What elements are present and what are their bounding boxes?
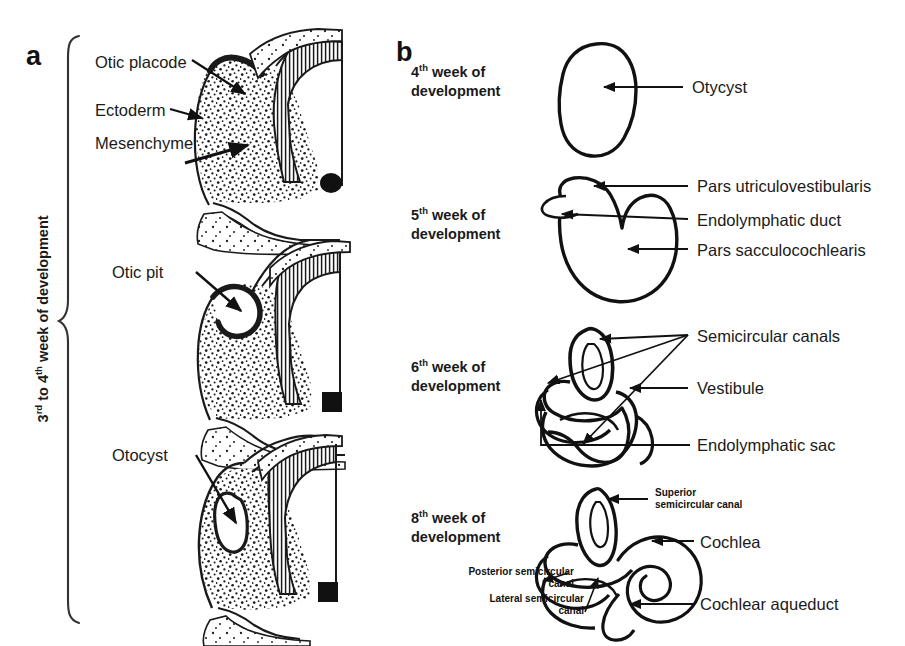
week-label-6: 6th week ofdevelopment: [411, 357, 500, 396]
leader-otic-placode: [192, 60, 245, 94]
leader-endolymphatic-duct: [562, 214, 688, 219]
label-pars-sacculocochlearis: Pars sacculocochlearis: [697, 241, 866, 260]
drawing-otic-pit-stage: [196, 240, 350, 470]
label-posterior-semicircular-canal: Posterior semicircularcanal: [424, 566, 574, 590]
label-cochlea: Cochlea: [700, 533, 761, 552]
label-cochlear-aqueduct: Cochlear aqueduct: [700, 595, 839, 614]
label-otic-placode: Otic placode: [95, 53, 187, 72]
leader-otocyst: [196, 455, 236, 523]
leader-semicircular-canal-posterior: [583, 335, 688, 444]
drawing-week4-otocyst: [559, 44, 683, 156]
panel-a-brace: [59, 36, 79, 623]
leader-mesenchyme: [185, 145, 248, 163]
drawing-week6-labyrinth: [536, 329, 690, 467]
leader-endolymphatic-sac: [541, 400, 690, 445]
week-label-4: 4th week ofdevelopment: [411, 62, 500, 101]
leader-semicircular-canal-superior: [600, 335, 688, 339]
label-ectoderm: Ectoderm: [95, 101, 166, 120]
label-vestibule: Vestibule: [697, 379, 764, 398]
embryology-figure: a 3rd to 4th week of development Otic pl…: [0, 0, 905, 646]
panel-a-letter: a: [26, 43, 41, 70]
label-otic-pit: Otic pit: [112, 263, 163, 282]
panel-a-side-label: 3rd to 4th week of development: [33, 154, 51, 484]
leader-otic-pit: [196, 272, 241, 311]
label-lateral-semicircular-canal: Lateral semicircularcanal: [434, 593, 584, 617]
leader-lateral-semicircular-canal: [585, 578, 598, 612]
drawing-week8-labyrinth: [536, 489, 701, 641]
label-otycyst: Otycyst: [692, 78, 747, 97]
label-endolymphatic-sac: Endolymphatic sac: [697, 436, 836, 455]
drawing-otocyst-stage: [196, 435, 342, 646]
label-endolymphatic-duct: Endolymphatic duct: [697, 211, 841, 230]
leader-semicircular-canal-lateral: [548, 335, 688, 383]
label-superior-semicircular-canal: Superiorsemicircular canal: [655, 487, 742, 511]
week-label-5: 5th week ofdevelopment: [411, 205, 500, 244]
leader-ectoderm: [170, 109, 202, 118]
drawing-week5-otocyst: [542, 178, 688, 302]
drawing-otic-placode-stage: [170, 29, 342, 254]
label-semicircular-canals: Semicircular canals: [697, 327, 840, 346]
label-otocyst: Otocyst: [112, 446, 168, 465]
week-label-8: 8th week ofdevelopment: [411, 508, 500, 547]
label-mesenchyme: Mesenchyme: [95, 134, 193, 153]
label-pars-utriculovestibularis: Pars utriculovestibularis: [697, 177, 871, 196]
